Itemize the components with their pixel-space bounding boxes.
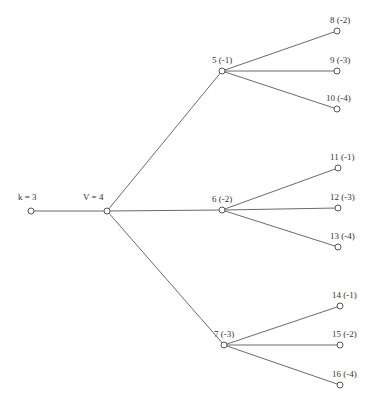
node-n11 bbox=[335, 165, 341, 171]
node-n14 bbox=[337, 303, 343, 309]
edge-n7-n16 bbox=[224, 345, 340, 385]
edge-n6-n13 bbox=[222, 210, 338, 247]
node-label-n12: 12 (-3) bbox=[330, 192, 355, 202]
node-n16 bbox=[337, 382, 343, 388]
node-n7 bbox=[221, 342, 227, 348]
edge-n7-n14 bbox=[224, 306, 340, 345]
node-label-n9: 9 (-3) bbox=[330, 55, 350, 65]
nodes bbox=[28, 28, 343, 388]
node-label-n13: 13 (-4) bbox=[330, 231, 355, 241]
node-n13 bbox=[335, 244, 341, 250]
edge-n5-n10 bbox=[222, 71, 337, 109]
node-v bbox=[104, 208, 110, 214]
node-label-n8: 8 (-2) bbox=[330, 15, 350, 25]
node-label-n16: 16 (-4) bbox=[332, 369, 357, 379]
node-k bbox=[28, 208, 34, 214]
node-label-k: k = 3 bbox=[18, 192, 37, 202]
node-label-v: V = 4 bbox=[83, 192, 104, 202]
node-label-n6: 6 (-2) bbox=[212, 194, 232, 204]
node-n15 bbox=[337, 342, 343, 348]
edge-v-n5 bbox=[107, 71, 222, 211]
node-label-n5: 5 (-1) bbox=[212, 55, 232, 65]
edge-v-n6 bbox=[107, 210, 222, 211]
node-n5 bbox=[219, 68, 225, 74]
tree-diagram: k = 3V = 45 (-1)6 (-2)7 (-3)8 (-2)9 (-3)… bbox=[0, 0, 370, 408]
node-n12 bbox=[335, 205, 341, 211]
node-label-n7: 7 (-3) bbox=[214, 329, 234, 339]
node-n9 bbox=[334, 68, 340, 74]
edge-v-n7 bbox=[107, 211, 224, 345]
node-n8 bbox=[334, 28, 340, 34]
edge-n6-n12 bbox=[222, 208, 338, 210]
edge-n5-n8 bbox=[222, 31, 337, 71]
node-n10 bbox=[334, 106, 340, 112]
node-label-n14: 14 (-1) bbox=[332, 290, 357, 300]
edges bbox=[31, 31, 340, 385]
edge-n6-n11 bbox=[222, 168, 338, 210]
node-label-n10: 10 (-4) bbox=[326, 93, 351, 103]
labels: k = 3V = 45 (-1)6 (-2)7 (-3)8 (-2)9 (-3)… bbox=[18, 15, 357, 379]
node-label-n15: 15 (-2) bbox=[332, 329, 357, 339]
node-n6 bbox=[219, 207, 225, 213]
node-label-n11: 11 (-1) bbox=[330, 152, 354, 162]
